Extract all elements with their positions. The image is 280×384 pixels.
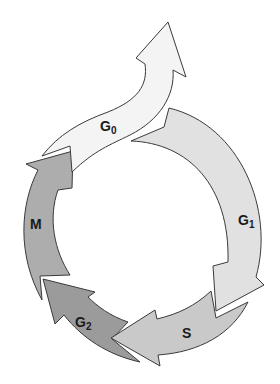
label-m: M [30, 216, 42, 232]
label-s: S [182, 325, 191, 341]
arrow-g1 [131, 108, 264, 311]
cell-cycle-diagram: G0 G1 S G2 M [0, 0, 280, 384]
arrow-g2 [43, 279, 140, 362]
figure-caption [0, 378, 280, 384]
arrow-g0 [42, 22, 186, 172]
